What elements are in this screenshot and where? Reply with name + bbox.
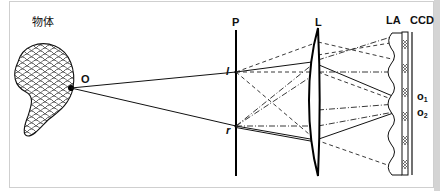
image-o2-label: o2	[417, 106, 428, 119]
lens-l	[309, 28, 320, 176]
ray-o-to-l	[71, 72, 236, 88]
plane-p-label: P	[232, 16, 239, 28]
object-label: 物体	[32, 15, 54, 29]
ccd-sensor	[402, 32, 412, 175]
lenslet-array-la	[388, 33, 402, 175]
diagram-canvas: 物体 O P l r L LA	[0, 0, 440, 191]
image-o1-label: o1	[417, 90, 428, 103]
point-r-label: r	[226, 124, 231, 136]
la-label: LA	[386, 14, 401, 26]
right-edge-bar	[434, 0, 440, 191]
ray-o-to-r	[71, 88, 236, 126]
optical-diagram: 物体 O P l r L LA	[0, 0, 440, 191]
ccd-label: CCD	[410, 14, 434, 26]
point-l-label: l	[226, 65, 230, 77]
object-blob	[15, 44, 74, 136]
point-o-label: O	[81, 73, 90, 85]
frame-border	[10, 2, 434, 188]
lens-l-label: L	[315, 16, 322, 28]
